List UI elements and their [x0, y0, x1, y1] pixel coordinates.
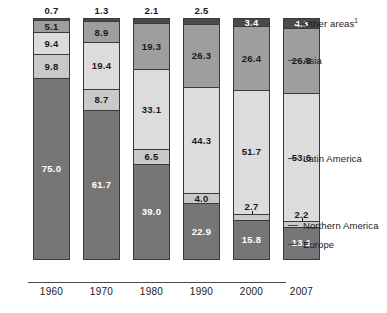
- segment-value-label: 26.4: [242, 54, 261, 64]
- segment-value-label: 33.1: [142, 105, 161, 115]
- segment-latin-america-1960[interactable]: 9.4: [34, 33, 69, 56]
- segment-value-label: 4.0: [195, 194, 209, 204]
- segment-asia-2000[interactable]: 26.4: [234, 27, 269, 90]
- segment-value-label: 44.3: [192, 136, 211, 146]
- segment-europe-1980[interactable]: 39.0: [134, 165, 169, 259]
- legend-label: Europe: [303, 239, 334, 250]
- bar-column-1980[interactable]: 2.119.333.16.539.0: [133, 18, 170, 260]
- segment-value-label: 61.7: [92, 180, 111, 190]
- segment-value-label: 15.8: [242, 235, 261, 245]
- x-tick-2007: 2007: [276, 286, 328, 297]
- legend-label: Northern America: [303, 220, 379, 231]
- legend-label: Other areas1: [303, 17, 358, 29]
- leader-line-icon: [288, 60, 298, 61]
- segment-value-label: 9.8: [45, 62, 59, 72]
- legend-callout-northern-america[interactable]: Northern America: [288, 220, 379, 232]
- leader-line-icon: [288, 244, 298, 245]
- segment-latin-america-1970[interactable]: 19.4: [84, 43, 119, 90]
- bar-stack-2000: 3.426.451.72.715.8: [233, 18, 270, 260]
- segment-value-label: 19.3: [142, 42, 161, 52]
- bar-top-value-1990: 2.5: [183, 5, 220, 18]
- segment-value-label: 51.7: [242, 147, 261, 157]
- bar-top-value-1970: 1.3: [83, 5, 120, 18]
- segment-value-label: 5.1: [45, 22, 59, 32]
- bar-column-1990[interactable]: 2.526.344.34.022.9: [183, 18, 220, 260]
- segment-asia-1970[interactable]: 8.9: [84, 22, 119, 43]
- legend-label: Asia: [303, 55, 322, 66]
- x-tick-1960: 1960: [26, 286, 78, 297]
- x-tick-2000: 2000: [226, 286, 278, 297]
- segment-value-label: 22.9: [192, 227, 211, 237]
- plot-area: 0.75.19.49.875.01.38.919.48.761.72.119.3…: [28, 18, 286, 282]
- bar-stack-1990: 26.344.34.022.9: [183, 18, 220, 260]
- legend-label: Latin America: [303, 153, 362, 164]
- segment-europe-2000[interactable]: 15.8: [234, 221, 269, 259]
- segment-value-label: 39.0: [142, 207, 161, 217]
- bar-column-1960[interactable]: 0.75.19.49.875.0: [33, 18, 70, 260]
- stacked-bar-chart: 0.75.19.49.875.01.38.919.48.761.72.119.3…: [0, 0, 387, 313]
- x-tick-1980: 1980: [126, 286, 178, 297]
- segment-northern-america-1990[interactable]: 4.0: [184, 194, 219, 204]
- bar-top-value-1960: 0.7: [33, 5, 70, 18]
- segment-value-label: 3.4: [245, 18, 259, 28]
- leader-line-icon: [288, 225, 298, 226]
- leader-line-icon: [288, 158, 298, 159]
- bar-column-2000[interactable]: 3.426.451.72.715.8: [233, 18, 270, 260]
- bar-stack-1980: 19.333.16.539.0: [133, 18, 170, 260]
- segment-northern-america-1980[interactable]: 6.5: [134, 150, 169, 166]
- x-tick-1970: 1970: [76, 286, 128, 297]
- segment-europe-1990[interactable]: 22.9: [184, 204, 219, 259]
- legend-callout-europe[interactable]: Europe: [288, 238, 334, 250]
- segment-latin-america-1990[interactable]: 44.3: [184, 88, 219, 194]
- segment-value-label: 8.9: [95, 28, 109, 38]
- bar-top-value-1980: 2.1: [133, 5, 170, 18]
- segment-latin-america-1980[interactable]: 33.1: [134, 70, 169, 149]
- segment-europe-1960[interactable]: 75.0: [34, 79, 69, 259]
- segment-asia-1960[interactable]: 5.1: [34, 21, 69, 33]
- segment-asia-1990[interactable]: 26.3: [184, 25, 219, 88]
- segment-value-label: 2.7: [234, 202, 269, 212]
- x-axis-line: [28, 282, 286, 283]
- segment-value-label: 6.5: [145, 152, 159, 162]
- segment-value-label: 2.2: [284, 210, 319, 220]
- legend-callout-asia[interactable]: Asia: [288, 55, 322, 67]
- segment-value-label: 19.4: [92, 61, 111, 71]
- segment-northern-america-1960[interactable]: 9.8: [34, 55, 69, 79]
- segment-northern-america-1970[interactable]: 8.7: [84, 90, 119, 111]
- segment-asia-1980[interactable]: 19.3: [134, 24, 169, 70]
- segment-other-areas-2000[interactable]: 3.4: [234, 19, 269, 27]
- bar-stack-1960: 5.19.49.875.0: [33, 18, 70, 260]
- segment-value-label: 26.3: [192, 51, 211, 61]
- leader-line-icon: [288, 23, 298, 24]
- legend-callout-other-areas[interactable]: Other areas1: [288, 17, 358, 29]
- segment-europe-1970[interactable]: 61.7: [84, 111, 119, 259]
- segment-value-label: 8.7: [95, 95, 109, 105]
- bar-stack-1970: 8.919.48.761.7: [83, 18, 120, 260]
- bar-column-1970[interactable]: 1.38.919.48.761.7: [83, 18, 120, 260]
- segment-latin-america-2000[interactable]: 51.7: [234, 91, 269, 215]
- legend-callout-latin-america[interactable]: Latin America: [288, 152, 362, 164]
- segment-value-label: 9.4: [45, 39, 59, 49]
- x-tick-1990: 1990: [176, 286, 228, 297]
- footnote-marker: 1: [354, 17, 358, 24]
- segment-value-label: 75.0: [42, 164, 61, 174]
